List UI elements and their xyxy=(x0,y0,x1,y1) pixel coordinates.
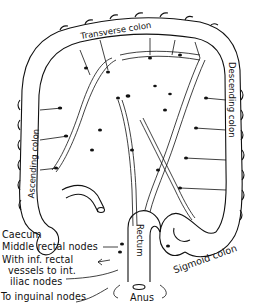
lymph-vessels xyxy=(40,38,226,226)
label-caecum: Caecum xyxy=(2,230,42,240)
label-inf-rectal-line3: iliac nodes xyxy=(10,277,62,287)
label-inguinal-nodes: To inguinal nodes xyxy=(1,292,86,302)
label-anus: Anus xyxy=(130,293,154,303)
label-inf-rectal-line2: vessels to int. xyxy=(8,266,76,276)
label-inf-rectal-line1: With inf. rectal xyxy=(2,255,73,265)
label-middle-rectal-nodes: Middle rectal nodes xyxy=(2,242,98,252)
label-descending-colon: Descending colon xyxy=(228,62,237,138)
label-rectum: Rectum xyxy=(136,224,145,256)
lymph-nodes xyxy=(54,54,208,254)
